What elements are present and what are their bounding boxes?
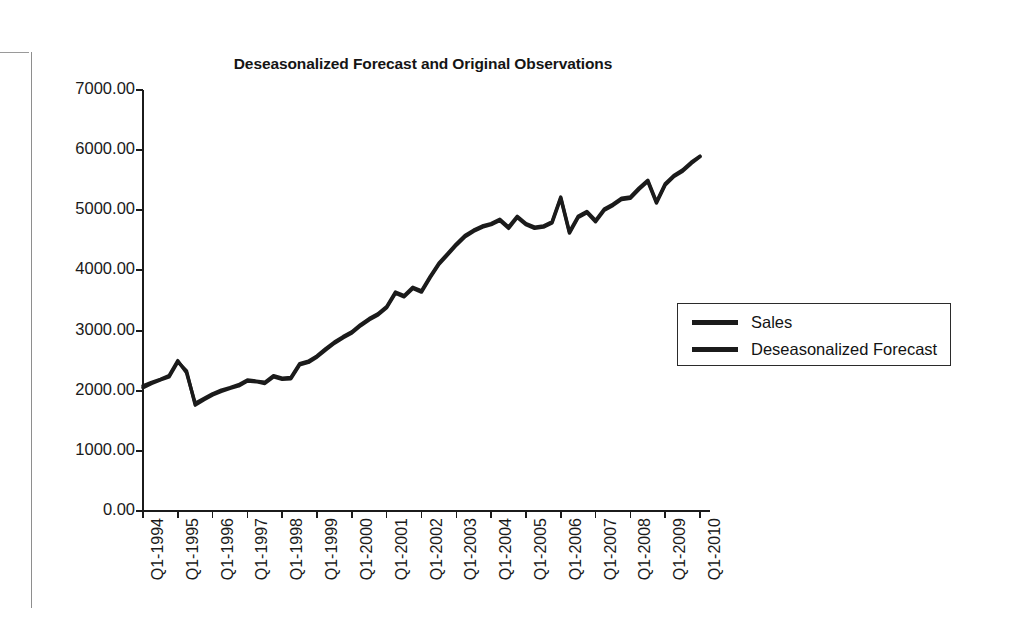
x-axis-tick-label: Q1-2010 — [706, 518, 724, 580]
legend-line-swatch-icon — [692, 320, 738, 325]
legend-item-label: Sales — [751, 313, 792, 332]
x-axis-tick-label: Q1-2005 — [532, 518, 550, 580]
legend-item-deseasonalized-forecast[interactable]: Deseasonalized Forecast — [692, 337, 937, 361]
x-axis-tick-label: Q1-1995 — [184, 518, 202, 580]
x-axis-tick-label: Q1-2006 — [567, 518, 585, 580]
chart-legend: Sales Deseasonalized Forecast — [677, 303, 951, 366]
x-axis-tick-label: Q1-2004 — [497, 518, 515, 580]
legend-item-label: Deseasonalized Forecast — [751, 340, 937, 359]
chart-figure: Deseasonalized Forecast and Original Obs… — [0, 0, 1009, 636]
x-axis-tick-label: Q1-2009 — [671, 518, 689, 580]
legend-line-swatch-icon — [692, 347, 738, 352]
x-axis-tick-label: Q1-1999 — [323, 518, 341, 580]
x-axis-tick-label: Q1-2000 — [358, 518, 376, 580]
x-axis-tick-label: Q1-2002 — [428, 518, 446, 580]
x-axis-tick-label: Q1-1998 — [288, 518, 306, 580]
legend-item-sales[interactable]: Sales — [692, 310, 792, 334]
x-axis-tick-label: Q1-2003 — [462, 518, 480, 580]
x-axis-tick-label: Q1-2008 — [636, 518, 654, 580]
x-axis-tick-label: Q1-2001 — [393, 518, 411, 580]
x-axis-tick-label: Q1-2007 — [602, 518, 620, 580]
x-axis-tick-label: Q1-1996 — [219, 518, 237, 580]
x-axis-tick-label: Q1-1994 — [149, 518, 167, 580]
x-axis-tick-label: Q1-1997 — [253, 518, 271, 580]
